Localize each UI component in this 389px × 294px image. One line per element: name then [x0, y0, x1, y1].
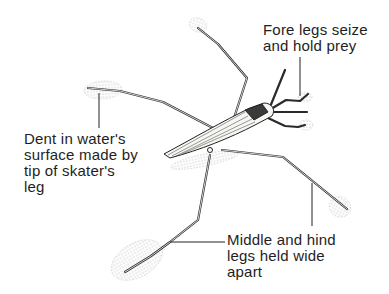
label-middle-hind-legs: Middle and hind legs held wide apart — [227, 232, 336, 280]
label-dent-in-water: Dent in water's surface made by tip of s… — [24, 131, 138, 195]
label-fore-legs: Fore legs seize and hold prey — [263, 22, 368, 54]
diagram-canvas: Fore legs seize and hold prey Dent in wa… — [0, 0, 389, 294]
